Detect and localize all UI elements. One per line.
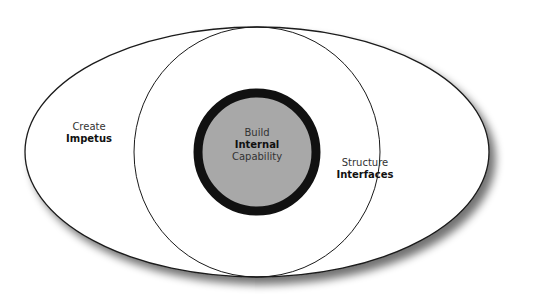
internal-text: Internal — [221, 139, 293, 151]
build-text: Build — [221, 127, 293, 139]
structure-text: Structure — [322, 157, 408, 169]
structure-interfaces-label: Structure Interfaces — [322, 157, 408, 181]
create-impetus-label: Create Impetus — [54, 121, 124, 145]
capability-text: Capability — [221, 151, 293, 163]
build-internal-capability-label: Build Internal Capability — [221, 127, 293, 163]
interfaces-text: Interfaces — [322, 169, 408, 181]
impetus-text: Impetus — [54, 133, 124, 145]
create-text: Create — [54, 121, 124, 133]
